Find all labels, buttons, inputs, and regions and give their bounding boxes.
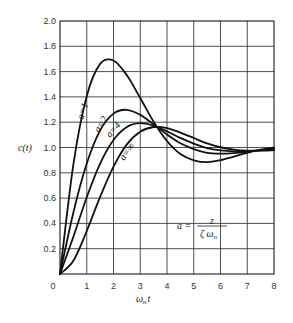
y-tick-label: 1.4 xyxy=(43,92,56,102)
formula-den-sub: n xyxy=(214,233,218,241)
x-tick-label: 3 xyxy=(138,281,143,291)
y-tick-label: 0.8 xyxy=(43,168,56,178)
x-tick-labels: 12345678 xyxy=(84,281,276,291)
x-tick-label: 4 xyxy=(164,281,169,291)
x-tick-label: 7 xyxy=(245,281,250,291)
y-tick-label: 2.0 xyxy=(43,16,56,26)
y-tick-label: 1.0 xyxy=(43,143,56,153)
y-tick-label: 0.6 xyxy=(43,193,56,203)
y-tick-labels: 0.20.40.60.81.01.21.41.61.82.0 xyxy=(43,16,56,254)
y-tick-label: 0.2 xyxy=(43,244,56,254)
y-tick-label: 1.2 xyxy=(43,117,56,127)
origin-label: 0 xyxy=(50,281,55,291)
curve-label-a1: a=1 xyxy=(74,101,90,120)
y-tick-label: 1.8 xyxy=(43,41,56,51)
formula-denominator: ζ ωn xyxy=(200,228,218,241)
step-response-chart: 0.20.40.60.81.01.21.41.61.82.0 12345678 … xyxy=(0,0,293,323)
formula-den-main: ζ ω xyxy=(200,228,214,240)
y-axis-label: c(t) xyxy=(18,142,33,154)
x-axis-label-t: t xyxy=(148,293,151,304)
formula-numerator: z xyxy=(209,215,214,226)
y-tick-label: 0.4 xyxy=(43,218,56,228)
x-tick-label: 5 xyxy=(191,281,196,291)
x-tick-label: 8 xyxy=(271,281,276,291)
formula-annotation: a = z ζ ωn xyxy=(177,215,227,241)
formula-lhs: a = xyxy=(177,220,191,231)
x-tick-label: 1 xyxy=(84,281,89,291)
x-tick-label: 2 xyxy=(111,281,116,291)
x-axis-label: ωnt xyxy=(136,293,151,306)
x-tick-label: 6 xyxy=(218,281,223,291)
y-tick-label: 1.6 xyxy=(43,67,56,77)
x-axis-label-omega: ω xyxy=(136,293,143,304)
x-axis-label-sub: n xyxy=(143,298,147,306)
curve-label-ainf: a=∞ xyxy=(117,140,137,162)
